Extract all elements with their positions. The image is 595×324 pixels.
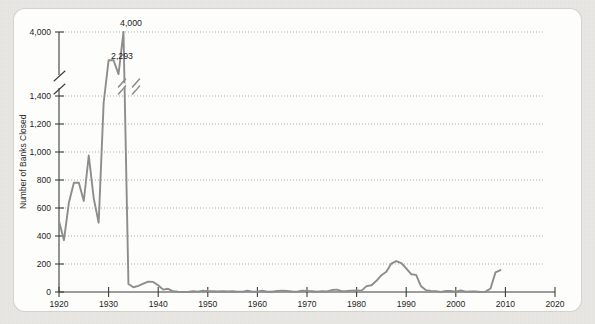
annotation-peak-2293: 2,293 <box>111 51 133 61</box>
ytick-label-800: 800 <box>37 175 52 185</box>
screenshot-root: 4,000 1,400 1,200 1,000 800 600 400 200 … <box>0 0 595 324</box>
series-line <box>59 32 500 292</box>
xtick-label-1960: 1960 <box>248 299 267 309</box>
xtick-label-1950: 1950 <box>198 299 217 309</box>
ytick-label-200: 200 <box>37 259 52 269</box>
xtick-label-1970: 1970 <box>297 299 316 309</box>
chart-panel: 4,000 1,400 1,200 1,000 800 600 400 200 … <box>14 9 581 311</box>
ytick-label-0: 0 <box>46 287 51 297</box>
xtick-label-2020: 2020 <box>545 299 564 309</box>
annotation-peak-4000: 4,000 <box>120 18 142 28</box>
ytick-label-1000: 1,000 <box>29 147 51 157</box>
xtick-label-2000: 2000 <box>446 299 465 309</box>
xtick-label-1920: 1920 <box>49 299 68 309</box>
data-series-banks-closed <box>59 32 500 292</box>
banks-closed-line-chart: 4,000 1,400 1,200 1,000 800 600 400 200 … <box>14 9 581 311</box>
ytick-label-1400: 1,400 <box>29 91 51 101</box>
xtick-label-1940: 1940 <box>149 299 168 309</box>
xtick-label-2010: 2010 <box>496 299 515 309</box>
xtick-label-1930: 1930 <box>99 299 118 309</box>
ytick-label-600: 600 <box>37 203 52 213</box>
ytick-label-4000: 4,000 <box>29 27 51 37</box>
y-axis-title: Number of Banks Closed <box>18 114 28 209</box>
ytick-label-400: 400 <box>37 231 52 241</box>
ytick-label-1200: 1,200 <box>29 119 51 129</box>
x-tick-labels: 1920 1930 1940 1950 1960 1970 1980 1990 … <box>49 299 564 309</box>
xtick-label-1980: 1980 <box>347 299 366 309</box>
gridlines <box>59 32 545 264</box>
xtick-label-1990: 1990 <box>397 299 416 309</box>
y-tick-labels: 4,000 1,400 1,200 1,000 800 600 400 200 … <box>29 27 51 297</box>
